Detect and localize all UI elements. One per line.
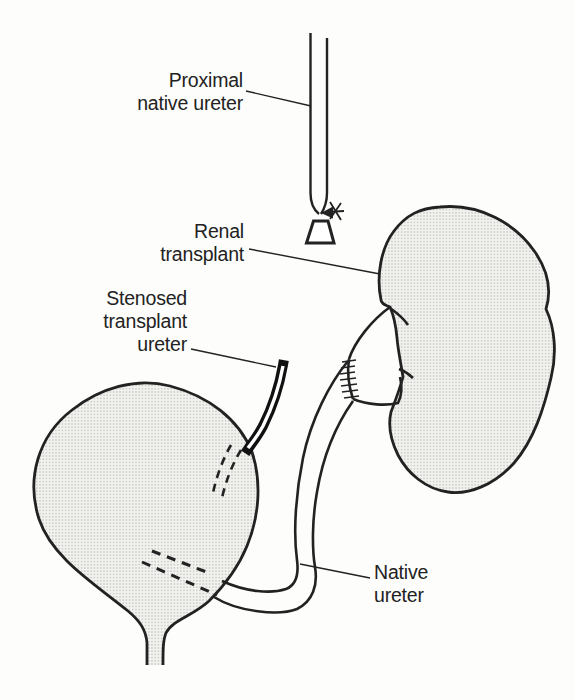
renal-transplant-diagram — [0, 0, 574, 700]
anastomosis-suture-line — [340, 359, 359, 399]
bladder-shape — [34, 383, 258, 665]
label-stenosed-transplant-ureter-line3: ureter — [137, 333, 187, 355]
stenosed-ureter-shape — [248, 365, 283, 449]
label-native-ureter: Native ureter — [374, 561, 428, 607]
label-stenosed-transplant-ureter: Stenosed transplant ureter — [103, 287, 187, 356]
label-stenosed-transplant-ureter-line1: Stenosed — [106, 287, 187, 309]
renal-transplant-kidney-shape — [379, 207, 554, 493]
label-proximal-native-ureter: Proximal native ureter — [137, 69, 243, 115]
label-native-ureter-line2: ureter — [374, 584, 424, 606]
proximal-native-ureter-shape — [311, 33, 328, 214]
label-stenosed-transplant-ureter-line2: transplant — [103, 310, 187, 332]
label-proximal-native-ureter-line1: Proximal — [169, 69, 243, 91]
leader-line-native-ureter — [300, 564, 370, 578]
leader-line-renal-transplant — [249, 249, 380, 274]
leader-line-proximal-native-ureter — [246, 91, 311, 106]
label-native-ureter-line1: Native — [374, 561, 428, 583]
label-renal-transplant-line1: Renal — [194, 220, 244, 242]
label-renal-transplant-line2: transplant — [160, 243, 244, 265]
leader-line-stenosed-ureter — [191, 349, 276, 367]
label-proximal-native-ureter-line2: native ureter — [137, 92, 243, 114]
ligated-stump-shape — [307, 221, 335, 243]
diagram-stage: Proximal native ureter Renal transplant … — [0, 0, 574, 700]
label-renal-transplant: Renal transplant — [160, 220, 244, 266]
